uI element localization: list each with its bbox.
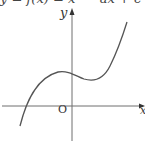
x-axis-label: x: [140, 104, 145, 117]
y-axis-label: y: [60, 5, 67, 20]
origin-label: O: [58, 103, 67, 116]
cubic-curve: [20, 22, 127, 126]
y-axis-arrow-icon: [70, 8, 75, 15]
graph: [0, 0, 145, 145]
